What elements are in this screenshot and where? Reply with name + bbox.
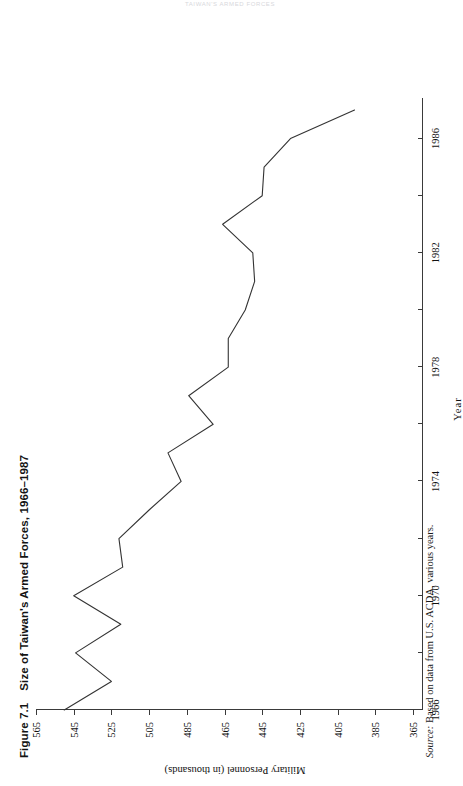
y-axis-tick-label: 505: [144, 722, 155, 738]
y-axis-tick-label: 485: [181, 722, 192, 738]
source-note: Source: Based on data from U.S. ACDA, va…: [424, 525, 435, 758]
y-axis-tick: [262, 710, 263, 715]
x-axis-tick-label: 1978: [430, 357, 441, 378]
y-axis-tick: [36, 710, 37, 715]
source-label: Source:: [424, 726, 435, 758]
figure-number: Figure 7.1: [18, 703, 30, 758]
x-axis-tick-label: 1974: [430, 471, 441, 492]
y-axis-tick: [225, 710, 226, 715]
y-axis-tick: [375, 710, 376, 715]
y-axis-tick: [300, 710, 301, 715]
y-axis-tick-label: 365: [408, 722, 419, 738]
y-axis-tick: [338, 710, 339, 715]
y-axis-tick: [187, 710, 188, 715]
x-axis-tick-label: 1982: [430, 242, 441, 263]
y-axis-tick-label: 405: [332, 722, 343, 738]
y-axis-tick-label: 445: [257, 722, 268, 738]
y-axis-tick-label: 385: [370, 722, 381, 738]
figure-title-text: Size of Taiwan's Armed Forces, 1966–1987: [18, 455, 30, 691]
x-axis-label: Year: [452, 397, 463, 420]
y-axis-tick-label: 565: [31, 722, 42, 738]
y-axis-tick: [74, 710, 75, 715]
chart-plot-area: 365385405425445465485505525545565 196619…: [46, 108, 423, 710]
x-axis-tick-label: 1986: [430, 128, 441, 149]
source-text: Based on data from U.S. ACDA, various ye…: [424, 525, 435, 726]
y-axis-tick-label: 545: [68, 722, 79, 738]
y-axis-label: Military Personnel (in thousands): [164, 765, 305, 776]
y-axis-tick: [149, 710, 150, 715]
y-axis-tick: [111, 710, 112, 715]
y-axis-tick: [413, 710, 414, 715]
figure-title: Figure 7.1Size of Taiwan's Armed Forces,…: [18, 455, 30, 758]
data-series-line: [36, 98, 423, 710]
y-axis-tick-label: 525: [106, 722, 117, 738]
y-axis-tick-label: 465: [219, 722, 230, 738]
y-axis-tick-label: 425: [294, 722, 305, 738]
